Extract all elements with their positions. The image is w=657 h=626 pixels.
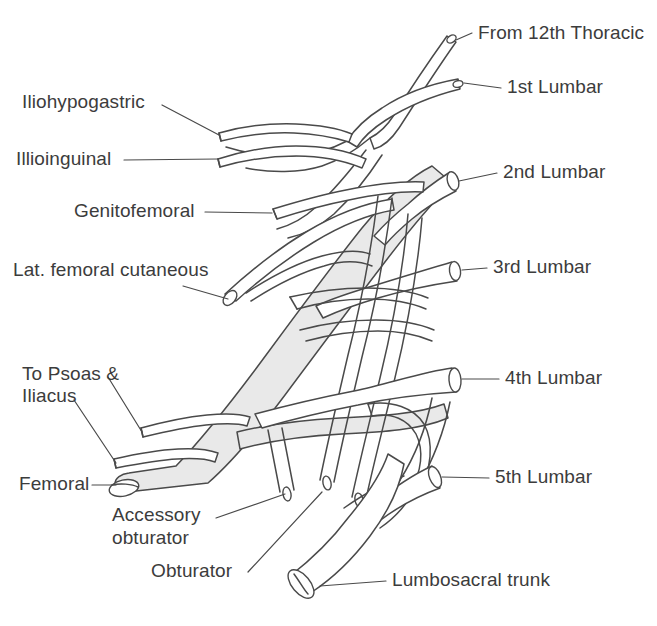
label-1st-lumbar: 1st Lumbar (507, 76, 603, 98)
crossing-strand-a-cap (322, 475, 333, 490)
lumbar-plexus-diagram: From 12th Thoracic 1st Lumbar 2nd Lumbar… (0, 0, 657, 626)
leader-5th-lumbar (442, 477, 489, 478)
label-from-12th-thoracic: From 12th Thoracic (478, 22, 644, 44)
label-4th-lumbar: 4th Lumbar (505, 367, 602, 389)
illioinguinal-body (218, 146, 366, 168)
label-illioinguinal: Illioinguinal (16, 148, 111, 170)
leader-3rd-lumbar (462, 268, 487, 270)
label-obturator-second-line: obturator (112, 527, 189, 549)
leader-2nd-lumbar (459, 173, 497, 181)
furcal-loop-tip (368, 404, 372, 416)
label-iliohypogastric: Iliohypogastric (22, 91, 145, 113)
label-lat-femoral-cutaneous: Lat. femoral cutaneous (13, 259, 208, 281)
femoral-nerve-terminal (108, 477, 141, 499)
label-to-psoas: To Psoas & (22, 363, 119, 385)
label-5th-lumbar: 5th Lumbar (495, 466, 592, 488)
label-iliacus: Iliacus (22, 385, 77, 407)
label-accessory: Accessory (112, 504, 201, 526)
leader-accessory-obturator (216, 494, 285, 518)
leader-to-psoas (108, 377, 142, 432)
leader-lumbosacral-trunk (320, 581, 386, 586)
leader-illioinguinal (124, 159, 218, 160)
label-obturator: Obturator (151, 560, 232, 582)
middle-chevron-v (290, 297, 297, 309)
leader-from-12th-thoracic (456, 33, 472, 40)
leader-iliohypogastric (162, 105, 219, 135)
iliohypogastric-body (219, 124, 352, 142)
leader-genitofemoral (205, 212, 272, 213)
illioinguinal-nerve (218, 146, 366, 168)
leader-1st-lumbar (464, 83, 501, 88)
label-femoral: Femoral (19, 473, 89, 495)
label-genitofemoral: Genitofemoral (74, 200, 195, 222)
iliohypogastric-nerve (219, 124, 352, 142)
label-3rd-lumbar: 3rd Lumbar (493, 256, 591, 278)
femoral-nerve-cap (108, 477, 141, 499)
leader-lat-femoral-cutaneous (183, 286, 228, 299)
label-2nd-lumbar: 2nd Lumbar (503, 161, 605, 183)
label-lumbosacral-trunk: Lumbosacral trunk (392, 569, 550, 591)
leader-to-iliacus (74, 400, 116, 463)
